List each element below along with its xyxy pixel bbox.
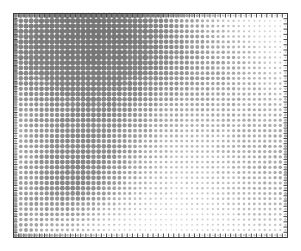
scatter-marker — [80, 55, 86, 61]
scatter-marker — [82, 223, 85, 226]
scatter-marker — [284, 234, 286, 236]
scatter-marker — [258, 224, 261, 227]
scatter-marker — [284, 77, 286, 79]
scatter-marker — [269, 77, 272, 80]
scatter-marker — [45, 134, 49, 138]
scatter-marker — [127, 18, 132, 23]
scatter-marker — [222, 197, 225, 200]
scatter-marker — [144, 187, 147, 190]
scatter-marker — [279, 140, 282, 143]
scatter-marker — [196, 182, 198, 184]
scatter-marker — [285, 36, 287, 38]
scatter-marker — [273, 171, 276, 174]
scatter-marker — [237, 155, 240, 158]
scatter-marker — [60, 86, 65, 91]
scatter-marker — [133, 86, 138, 91]
scatter-marker — [154, 102, 158, 106]
scatter-marker — [19, 213, 23, 217]
scatter-marker — [55, 134, 60, 139]
scatter-marker — [248, 181, 251, 184]
scatter-marker — [91, 155, 96, 160]
scatter-marker — [248, 171, 251, 174]
scatter-marker — [232, 56, 235, 59]
scatter-marker — [222, 140, 225, 143]
scatter-marker — [143, 92, 147, 96]
scatter-marker — [29, 44, 34, 49]
scatter-marker — [132, 50, 137, 55]
scatter-marker — [159, 60, 164, 65]
scatter-marker — [128, 129, 132, 133]
scatter-marker — [284, 197, 287, 200]
scatter-marker — [279, 108, 282, 111]
scatter-marker — [180, 140, 183, 143]
scatter-marker — [107, 134, 111, 138]
scatter-marker — [211, 113, 214, 116]
scatter-marker — [127, 50, 132, 55]
scatter-marker — [23, 24, 28, 29]
scatter-marker — [138, 139, 142, 143]
scatter-marker — [81, 170, 86, 175]
scatter-marker — [242, 145, 245, 148]
scatter-marker — [107, 181, 111, 185]
scatter-marker — [211, 66, 215, 70]
scatter-marker — [222, 161, 225, 164]
scatter-marker — [96, 97, 101, 102]
scatter-marker — [24, 124, 28, 128]
scatter-marker — [34, 202, 38, 206]
scatter-marker — [44, 81, 49, 86]
scatter-marker — [106, 39, 112, 45]
scatter-marker — [49, 81, 54, 86]
scatter-marker — [101, 107, 106, 112]
scatter-marker — [34, 55, 39, 60]
scatter-marker — [195, 24, 199, 28]
scatter-marker — [206, 71, 210, 75]
scatter-marker — [143, 39, 148, 44]
scatter-marker — [186, 161, 189, 164]
scatter-marker — [96, 102, 101, 107]
scatter-marker — [13, 81, 18, 86]
scatter-marker — [186, 150, 189, 153]
scatter-marker — [107, 144, 112, 149]
scatter-marker — [216, 35, 219, 38]
scatter-marker — [227, 25, 229, 27]
scatter-marker — [14, 207, 18, 211]
scatter-marker — [237, 87, 240, 90]
scatter-marker — [232, 71, 235, 74]
scatter-marker — [242, 113, 245, 116]
scatter-marker — [243, 192, 246, 195]
scatter-marker — [107, 128, 111, 132]
scatter-marker — [176, 229, 178, 231]
scatter-marker — [19, 76, 24, 81]
scatter-marker — [248, 98, 251, 101]
scatter-marker — [279, 25, 281, 27]
scatter-marker — [144, 139, 147, 142]
scatter-marker — [143, 129, 147, 133]
scatter-marker — [242, 176, 245, 179]
scatter-marker — [284, 51, 286, 53]
scatter-marker — [221, 50, 225, 54]
scatter-marker — [180, 71, 184, 75]
dot-matrix-scatter-figure — [0, 0, 301, 251]
scatter-marker — [263, 197, 266, 200]
scatter-marker — [273, 145, 276, 148]
scatter-marker — [80, 18, 86, 24]
scatter-marker — [279, 30, 281, 32]
scatter-marker — [227, 203, 230, 206]
scatter-marker — [34, 60, 39, 65]
scatter-marker — [107, 165, 111, 169]
scatter-marker — [29, 207, 33, 211]
scatter-marker — [71, 229, 74, 232]
scatter-marker — [232, 108, 235, 111]
scatter-marker — [112, 181, 116, 185]
scatter-marker — [34, 186, 38, 190]
scatter-marker — [248, 51, 251, 54]
scatter-marker — [148, 50, 153, 55]
scatter-marker — [96, 70, 101, 75]
scatter-marker — [242, 166, 245, 169]
scatter-marker — [191, 134, 194, 137]
scatter-marker — [70, 186, 75, 191]
scatter-marker — [237, 161, 240, 164]
scatter-marker — [191, 234, 193, 236]
scatter-marker — [227, 77, 231, 81]
scatter-marker — [29, 139, 33, 143]
